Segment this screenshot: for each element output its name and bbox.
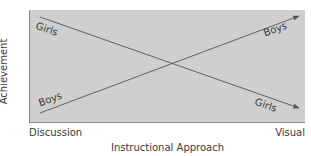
x-axis-title: Instructional Approach: [0, 142, 311, 153]
y-axis-title: Achievement: [0, 39, 9, 105]
x-tick-discussion: Discussion: [29, 127, 82, 138]
x-tick-visual: Visual: [275, 127, 305, 138]
achievement-chart: Achievement Girls Boys Boys Girls Discus…: [0, 0, 311, 156]
